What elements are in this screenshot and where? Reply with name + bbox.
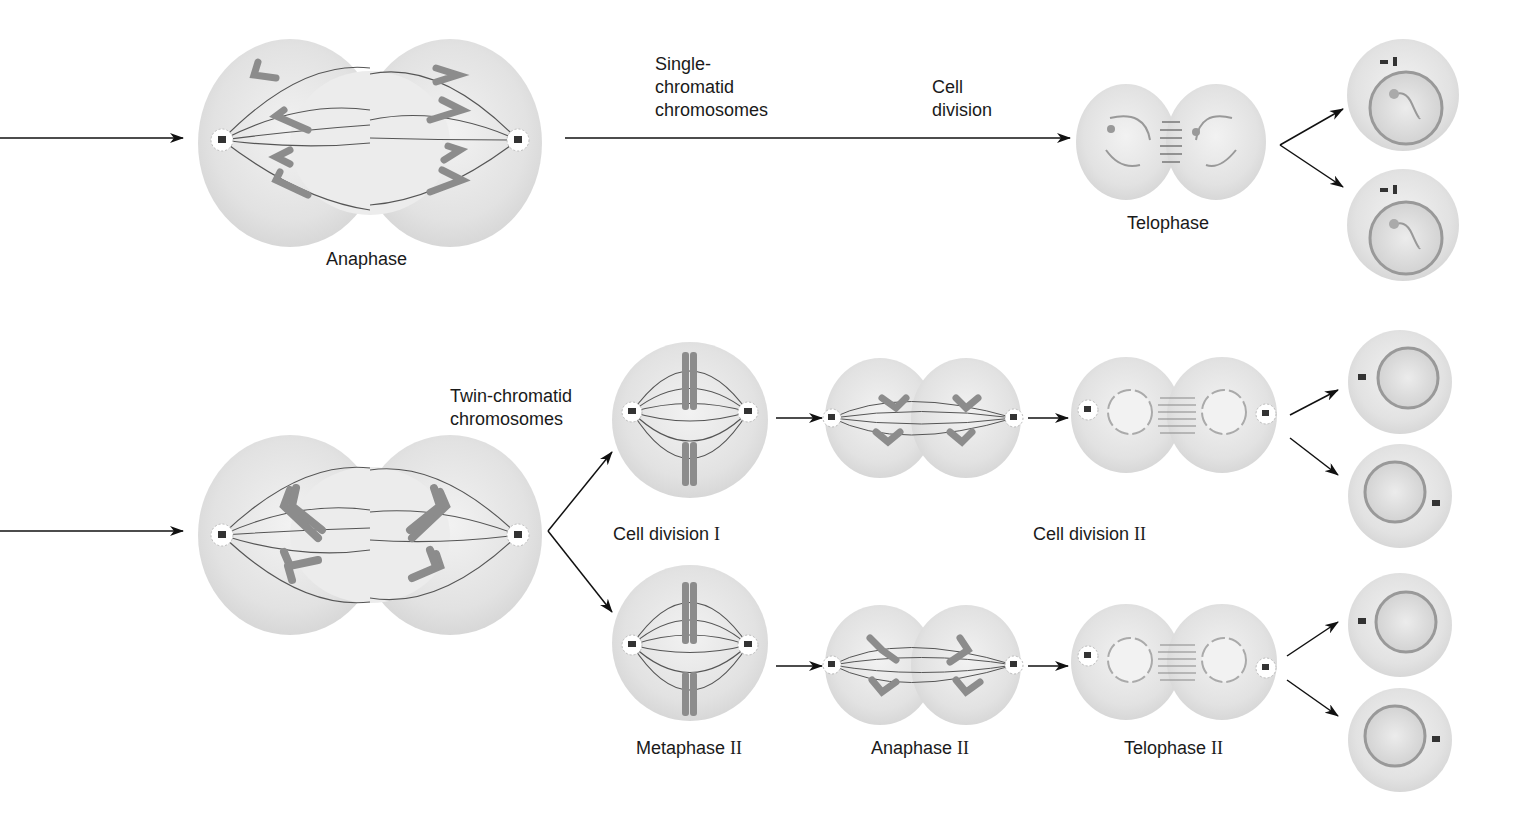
arrow-telo2-d4 (1287, 680, 1338, 716)
cell-division-1-numeral: I (714, 524, 720, 544)
metaphase-2-numeral: II (730, 738, 742, 758)
mitosis-daughter-cell-2 (1347, 169, 1459, 281)
anaphase-2-text: Anaphase (871, 738, 952, 758)
cell-division-2-text: Cell division (1033, 524, 1129, 544)
anaphase-2-cell-upper (823, 358, 1023, 478)
twin-chromatid-label-1: Twin-chromatid (450, 385, 572, 407)
metaphase-2-label: Metaphase II (636, 737, 742, 759)
anaphase-2-numeral: II (957, 738, 969, 758)
single-chromatid-label-2: chromatid (655, 76, 734, 98)
meiosis-daughter-cell-4 (1348, 688, 1452, 792)
arrow-telo2-d2 (1290, 438, 1338, 475)
anaphase-2-label: Anaphase II (871, 737, 969, 759)
metaphase-2-cell-upper (612, 342, 768, 498)
cell-division-2-label: Cell division II (1033, 523, 1146, 545)
cell-division-label-2: division (932, 99, 992, 121)
telophase-2-cell-upper (1071, 357, 1277, 473)
arrow-telo2-d3 (1287, 622, 1338, 656)
telophase-2-cell-lower (1071, 604, 1277, 720)
cell-division-1-text: Cell division (613, 524, 709, 544)
meiosis-daughter-cell-2 (1348, 444, 1452, 548)
metaphase-2-cell-lower (612, 565, 768, 721)
meiosis-daughter-cell-1 (1348, 330, 1452, 434)
twin-chromatid-label-2: chromosomes (450, 408, 563, 430)
meiosis-daughter-cell-3 (1348, 573, 1452, 677)
arrow-top-daughter-1 (1280, 109, 1343, 145)
telophase-2-numeral: II (1211, 738, 1223, 758)
metaphase-2-text: Metaphase (636, 738, 725, 758)
cell-division-1-label: Cell division I (613, 523, 720, 545)
meiosis-mitosis-diagram (0, 0, 1529, 825)
mitosis-daughter-cell-1 (1347, 39, 1459, 151)
arrow-top-daughter-2 (1280, 145, 1343, 187)
arrow-to-metaphase-2b (548, 531, 612, 612)
arrow-to-metaphase-2a (548, 452, 612, 531)
telophase-2-text: Telophase (1124, 738, 1206, 758)
cell-division-2-numeral: II (1134, 524, 1146, 544)
meiosis-anaphase-1-cell (198, 435, 542, 635)
anaphase-label: Anaphase (326, 248, 407, 270)
anaphase-2-cell-lower (823, 605, 1023, 725)
telophase-2-label: Telophase II (1124, 737, 1223, 759)
telophase-cell (1076, 84, 1266, 200)
arrow-telo2-d1 (1290, 390, 1338, 415)
cell-division-label-1: Cell (932, 76, 963, 98)
single-chromatid-label-1: Single- (655, 53, 711, 75)
single-chromatid-label-3: chromosomes (655, 99, 768, 121)
anaphase-cell (198, 39, 542, 247)
telophase-label: Telophase (1127, 212, 1209, 234)
